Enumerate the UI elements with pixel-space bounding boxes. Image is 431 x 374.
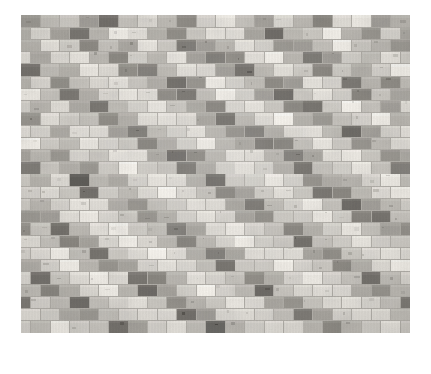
figure-caption <box>0 358 431 369</box>
mosaic-tile-wall-photograph <box>21 15 410 333</box>
page-canvas <box>0 0 431 374</box>
mosaic-tile-grid <box>21 15 410 333</box>
